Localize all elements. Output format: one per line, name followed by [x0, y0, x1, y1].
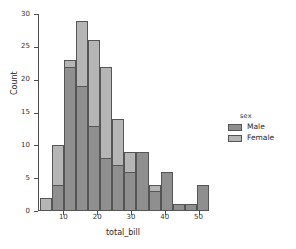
bar-male-7	[124, 172, 136, 211]
y-tick-mark	[34, 47, 38, 48]
bar-male-11	[173, 204, 185, 211]
x-tick-label: 20	[87, 214, 107, 221]
legend: sex Male Female	[228, 112, 290, 145]
bar-male-4	[88, 126, 100, 211]
bar-male-10	[161, 172, 173, 211]
y-tick-mark	[34, 211, 38, 212]
legend-swatch-male	[228, 124, 242, 131]
y-tick-label: 0	[14, 208, 30, 215]
legend-swatch-female	[228, 135, 242, 142]
x-axis-label: total_bill	[38, 228, 208, 237]
legend-item-male[interactable]: Male	[228, 123, 290, 131]
y-tick-label: 5	[14, 175, 30, 182]
y-axis-label: Count	[10, 71, 19, 95]
y-tick-label: 15	[14, 109, 30, 116]
chart-figure: 051015202530 1020304050 total_bill Count…	[0, 0, 296, 249]
legend-label-male: Male	[247, 123, 265, 131]
bar-male-5	[100, 158, 112, 211]
x-tick-label: 30	[121, 214, 141, 221]
y-tick-mark	[34, 145, 38, 146]
y-tick-mark	[34, 80, 38, 81]
y-tick-mark	[34, 113, 38, 114]
x-tick-label: 10	[53, 214, 73, 221]
legend-title: sex	[240, 112, 290, 120]
legend-item-female[interactable]: Female	[228, 134, 290, 142]
legend-label-female: Female	[247, 134, 274, 142]
bar-female-0	[40, 198, 52, 211]
bar-male-9	[149, 191, 161, 211]
histogram-bars	[38, 14, 207, 211]
y-tick-label: 25	[14, 43, 30, 50]
x-tick-label: 50	[189, 214, 209, 221]
bar-male-12	[185, 204, 197, 211]
y-tick-label: 30	[14, 11, 30, 18]
bar-male-13	[197, 185, 209, 211]
plot-area	[38, 14, 207, 211]
bar-male-2	[64, 67, 76, 211]
bar-male-1	[52, 185, 64, 211]
y-tick-label: 10	[14, 142, 30, 149]
x-tick-label: 40	[155, 214, 175, 221]
bar-male-8	[136, 152, 148, 211]
bar-male-6	[112, 165, 124, 211]
bar-male-3	[76, 86, 88, 211]
y-tick-mark	[34, 14, 38, 15]
y-tick-mark	[34, 178, 38, 179]
